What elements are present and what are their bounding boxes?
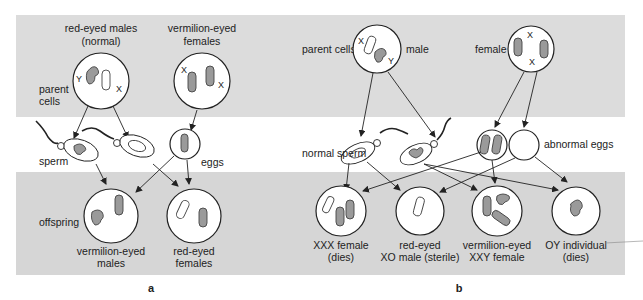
sperm-label: sperm <box>39 155 68 167</box>
female-parent-cell: X X <box>508 26 554 72</box>
female-parent-cell: X X <box>174 53 230 109</box>
offspring-red-female <box>167 189 221 243</box>
male-parent-subtitle: (normal) <box>81 35 120 47</box>
offspring-1-line1: vermilion-eyed <box>77 245 145 257</box>
y-label: Y <box>76 74 82 84</box>
x-label: X <box>116 84 122 94</box>
abnormal-eggs-label: abnormal eggs <box>544 138 613 150</box>
x-chromosome-vermilion <box>188 72 196 92</box>
eggs-label: eggs <box>201 156 224 168</box>
male-parent-title: red-eyed males <box>65 22 137 34</box>
male-label: male <box>406 43 429 55</box>
egg <box>170 129 200 159</box>
parent-cells-label-2: cells <box>39 95 60 107</box>
offspring-xo <box>396 187 444 235</box>
male-parent-cell: Y X <box>73 53 129 109</box>
offspring-2-line1: red-eyed <box>399 239 441 251</box>
male-parent-cell: X Y <box>353 25 401 73</box>
offspring-3-line1: vermilion-eyed <box>463 239 531 251</box>
offspring-4-line1: OY individual <box>545 239 607 251</box>
offspring-xxx <box>316 186 366 236</box>
female-parent-title: vermilion-eyed <box>168 22 236 34</box>
x-label: X <box>181 65 187 75</box>
x-label: X <box>218 80 224 90</box>
parent-cells-label: parent <box>39 83 69 95</box>
x-label: X <box>529 57 535 67</box>
offspring-2-line2: females <box>176 257 213 269</box>
x-chromosome-vermilion <box>206 66 214 86</box>
normal-sperm-label: normal sperm <box>302 147 366 159</box>
x-label: X <box>358 36 364 46</box>
offspring-label: offspring <box>39 216 79 228</box>
abnormal-egg-empty <box>509 130 539 160</box>
offspring-1-line1: XXX female <box>313 239 369 251</box>
offspring-1-line2: males <box>97 257 125 269</box>
offspring-vermilion-male <box>84 189 138 243</box>
offspring-3-line2: XXY female <box>469 251 524 263</box>
offspring-2-line1: red-eyed <box>173 245 215 257</box>
y-label: Y <box>388 56 394 66</box>
x-chromosome-red <box>102 70 110 90</box>
offspring-xxy <box>472 186 522 236</box>
abnormal-egg-xx <box>477 130 507 160</box>
female-parent-subtitle: females <box>184 35 221 47</box>
parent-cells-label: parent cells <box>302 43 356 55</box>
panel-b-label: b <box>456 282 463 294</box>
offspring-2-line2: XO male (sterile) <box>381 251 460 263</box>
panel-a-label: a <box>148 282 155 294</box>
female-label: female <box>475 43 507 55</box>
offspring-oy <box>552 187 600 235</box>
nondisjunction-diagram: red-eyed males (normal) vermilion-eyed f… <box>0 0 643 300</box>
offspring-4-line2: (dies) <box>563 251 589 263</box>
offspring-1-line2: (dies) <box>328 251 354 263</box>
x-label: X <box>527 30 533 40</box>
